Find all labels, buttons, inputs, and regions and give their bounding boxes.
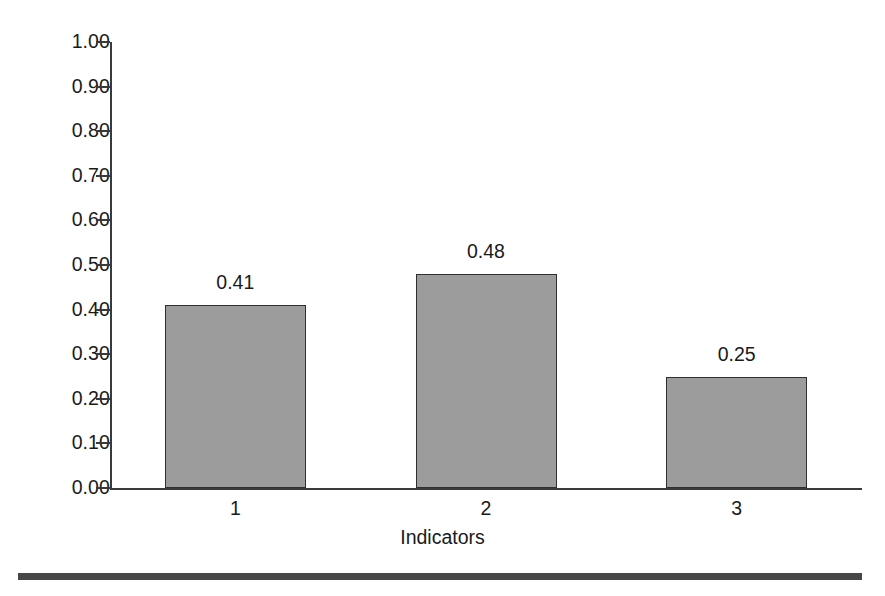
bar-value-label: 0.41 bbox=[175, 273, 295, 293]
x-axis-title: Indicators bbox=[0, 527, 885, 548]
plot-area bbox=[110, 42, 862, 488]
y-axis-tick bbox=[96, 442, 110, 444]
y-axis-tick-labels: 1.000.900.800.700.600.500.400.300.200.10… bbox=[0, 0, 110, 596]
y-axis-tick bbox=[96, 353, 110, 355]
bottom-divider-rule bbox=[18, 573, 862, 580]
x-axis-category-label: 3 bbox=[687, 499, 787, 519]
y-axis-tick bbox=[96, 41, 110, 43]
y-axis-tick bbox=[96, 309, 110, 311]
bar-value-label: 0.48 bbox=[426, 242, 546, 262]
x-axis-category-label: 1 bbox=[185, 499, 285, 519]
x-axis-category-label: 2 bbox=[436, 499, 536, 519]
y-axis-tick bbox=[96, 219, 110, 221]
y-axis-tick bbox=[96, 487, 110, 489]
y-axis-tick bbox=[96, 86, 110, 88]
bar-chart-figure: 1.000.900.800.700.600.500.400.300.200.10… bbox=[0, 0, 885, 596]
bar[interactable] bbox=[165, 305, 306, 488]
y-axis-tick bbox=[96, 130, 110, 132]
bar[interactable] bbox=[416, 274, 557, 488]
y-axis-tick bbox=[96, 264, 110, 266]
bar[interactable] bbox=[666, 377, 807, 489]
bar-value-label: 0.25 bbox=[677, 345, 797, 365]
y-axis-tick bbox=[96, 175, 110, 177]
x-axis-line bbox=[110, 488, 862, 490]
y-axis-tick bbox=[96, 398, 110, 400]
